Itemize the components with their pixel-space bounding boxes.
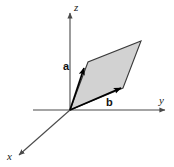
figure-canvas: z y x a b bbox=[0, 0, 174, 167]
x-axis-line bbox=[19, 110, 70, 155]
y-axis-label: y bbox=[158, 94, 164, 106]
vector-a-label: a bbox=[63, 60, 70, 72]
x-axis-label: x bbox=[6, 150, 12, 162]
vector-b-label: b bbox=[106, 96, 113, 108]
z-axis-label: z bbox=[73, 1, 79, 13]
vector-parallelogram-figure: z y x a b bbox=[0, 0, 174, 167]
